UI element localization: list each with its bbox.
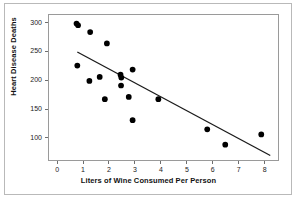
x-tick-label: 7 — [229, 166, 249, 173]
y-tick-mark — [45, 137, 48, 138]
data-point — [222, 142, 228, 148]
data-point — [204, 126, 210, 132]
data-point — [75, 22, 81, 28]
y-tick-label: 250 — [16, 47, 42, 54]
plot-area — [48, 14, 279, 161]
data-point — [97, 74, 103, 80]
plot-canvas — [49, 15, 278, 160]
y-tick-mark — [45, 109, 48, 110]
y-tick-mark — [45, 80, 48, 81]
data-point — [258, 132, 264, 138]
data-point — [155, 96, 161, 102]
x-tick-label: 2 — [99, 166, 119, 173]
x-tick-label: 6 — [203, 166, 223, 173]
y-tick-label: 300 — [16, 19, 42, 26]
x-tick-label: 5 — [177, 166, 197, 173]
x-tick-label: 0 — [47, 166, 67, 173]
data-point — [102, 96, 108, 102]
data-point — [87, 29, 93, 35]
chart-figure: 100150200250300012345678 Liters of Wine … — [0, 0, 297, 199]
x-tick-mark — [160, 161, 161, 164]
data-point — [126, 94, 132, 100]
trend-line — [77, 52, 270, 155]
y-tick-mark — [45, 22, 48, 23]
x-tick-mark — [108, 161, 109, 164]
x-tick-label: 1 — [73, 166, 93, 173]
y-axis-label: Heart Disease Deaths — [9, 0, 18, 117]
data-point — [130, 117, 136, 123]
x-tick-mark — [264, 161, 265, 164]
x-tick-mark — [212, 161, 213, 164]
y-tick-label: 150 — [16, 105, 42, 112]
data-point — [104, 41, 110, 47]
x-tick-mark — [186, 161, 187, 164]
regression-line — [77, 52, 270, 155]
x-tick-label: 8 — [255, 166, 275, 173]
data-point — [74, 63, 80, 69]
data-point — [118, 83, 124, 89]
y-tick-label: 200 — [16, 76, 42, 83]
x-tick-mark — [57, 161, 58, 164]
data-point — [118, 75, 124, 81]
y-tick-label: 100 — [16, 134, 42, 141]
data-point — [87, 78, 93, 84]
x-tick-mark — [238, 161, 239, 164]
x-tick-label: 4 — [151, 166, 171, 173]
data-point — [130, 67, 136, 73]
x-tick-mark — [134, 161, 135, 164]
data-points — [74, 21, 264, 148]
x-tick-label: 3 — [125, 166, 145, 173]
x-axis-label: Liters of Wine Consumed Per Person — [0, 176, 297, 185]
x-tick-mark — [83, 161, 84, 164]
y-tick-mark — [45, 51, 48, 52]
